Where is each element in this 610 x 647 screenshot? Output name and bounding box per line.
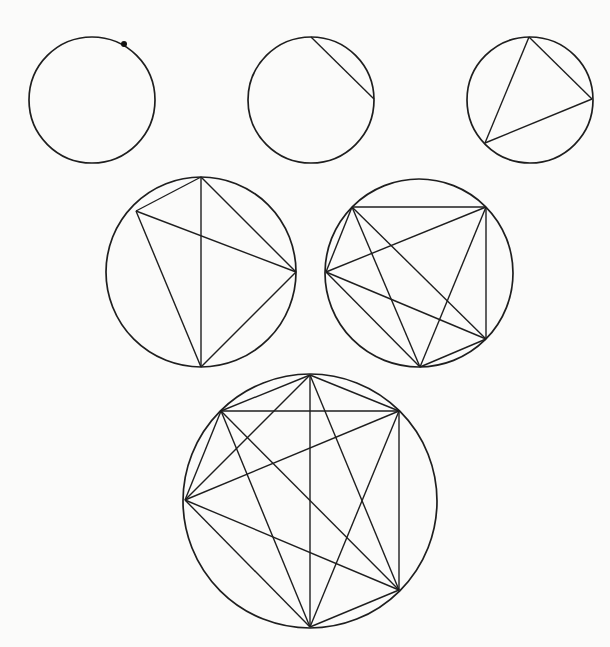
chord-line [136, 211, 296, 272]
chord-line [326, 207, 486, 272]
diagram-circle-5-points [325, 179, 513, 367]
chord-line [221, 375, 310, 411]
chord-line [310, 411, 399, 627]
point-marker [121, 41, 127, 47]
chord-line [326, 272, 420, 367]
diagram-circle-6-points [183, 374, 437, 628]
diagram-circle-1-point [29, 37, 155, 163]
circle-outline [467, 37, 593, 163]
chord-line [529, 37, 592, 99]
diagram-circle-2-points [248, 37, 374, 163]
diagram-circle-4-points [106, 177, 296, 367]
chord-line [326, 207, 352, 272]
chord-line [136, 211, 201, 367]
chord-line [185, 500, 310, 627]
circle-outline [29, 37, 155, 163]
circle-chord-figure [0, 0, 610, 647]
diagram-circle-3-points [467, 37, 593, 163]
circle-outline [248, 37, 374, 163]
chord-line [221, 411, 310, 627]
chord-line [326, 272, 486, 339]
chord-line [201, 272, 296, 367]
chord-line [201, 177, 296, 272]
chord-line [185, 411, 399, 500]
